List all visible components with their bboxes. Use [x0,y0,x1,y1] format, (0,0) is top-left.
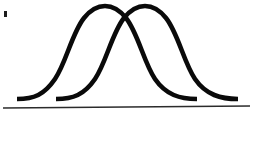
scan-speck [4,11,7,17]
figure-canvas [0,0,255,143]
bell-curve-figure [0,0,255,143]
